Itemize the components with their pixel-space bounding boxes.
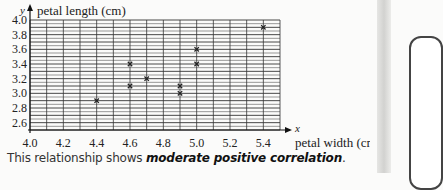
y-axis-symbol: y	[19, 4, 25, 16]
x-tick-label: 5.0	[189, 136, 204, 150]
x-tick-label: 4.6	[123, 136, 138, 150]
x-axis-label: petal width (cm)	[295, 135, 370, 150]
y-tick-label: 3.0	[12, 86, 27, 100]
y-tick-label: 2.8	[12, 101, 27, 115]
y-tick-label: 3.6	[12, 42, 27, 56]
x-tick-label: 4.8	[156, 136, 171, 150]
scatter-plot: 4.03.83.63.43.23.02.82.64.04.24.44.64.85…	[0, 0, 370, 150]
y-axis-label: petal length (cm)	[37, 3, 126, 18]
x-axis-arrow-icon	[285, 127, 292, 133]
x-tick-label: 5.4	[256, 136, 271, 150]
x-tick-label: 4.0	[23, 136, 38, 150]
x-tick-label: 4.2	[56, 136, 71, 150]
caption-emphasis: moderate positive correlation	[146, 151, 342, 165]
y-tick-label: 3.4	[12, 57, 27, 71]
y-tick-label: 2.6	[12, 116, 27, 130]
x-tick-label: 4.4	[89, 136, 104, 150]
caption-suffix: .	[342, 151, 346, 165]
side-panel-box	[409, 36, 443, 190]
page-edge-strip	[377, 0, 391, 173]
y-tick-label: 3.2	[12, 72, 27, 86]
x-axis-symbol: x	[294, 122, 300, 134]
caption-text: This relationship shows moderate positiv…	[7, 151, 346, 165]
y-tick-label: 3.8	[12, 28, 27, 42]
caption-prefix: This relationship shows	[7, 151, 146, 165]
x-tick-label: 5.2	[223, 136, 238, 150]
y-axis-arrow-icon	[27, 4, 33, 11]
